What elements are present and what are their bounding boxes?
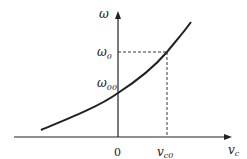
y-axis-arrow-icon xyxy=(115,11,121,19)
y-axis-label: ω xyxy=(99,7,109,21)
omega00-label: ω00 xyxy=(97,76,117,92)
omega0-label: ω0 xyxy=(97,45,112,61)
x-axis-arrow-icon xyxy=(224,134,232,140)
diagram-canvas: ω ω0 ω00 0 vc0 vc xyxy=(0,0,247,159)
x-axis-label: vc xyxy=(228,143,240,158)
origin-label: 0 xyxy=(114,146,121,159)
omega-vc-curve xyxy=(41,22,191,130)
vc0-label: vc0 xyxy=(157,145,173,159)
